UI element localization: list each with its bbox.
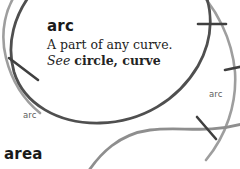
tick-mark-right: [225, 66, 240, 70]
crossref-targets[interactable]: circle, curve: [74, 53, 160, 68]
crossref-see-label: See: [47, 53, 70, 68]
outer-arc-left: [3, 0, 40, 113]
next-entry-headword: area: [4, 146, 43, 163]
dictionary-page: arc A part of any curve. See circle, cur…: [0, 0, 240, 169]
diagram-label-arc-right: arc: [209, 89, 223, 99]
entry-crossreference: See circle, curve: [47, 53, 197, 68]
dictionary-entry: arc A part of any curve. See circle, cur…: [47, 18, 197, 68]
entry-headword: arc: [47, 18, 197, 35]
diagram-label-arc-left: arc: [23, 110, 37, 120]
entry-definition: A part of any curve.: [47, 37, 197, 52]
